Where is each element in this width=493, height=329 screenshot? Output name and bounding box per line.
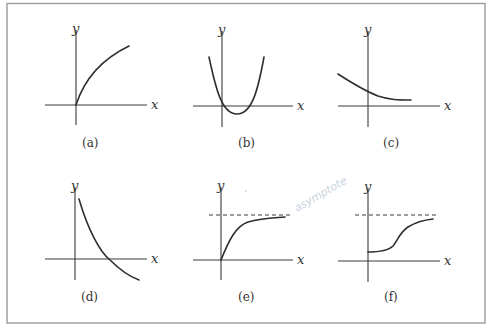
y-axis-label: y [217, 22, 226, 37]
panel-d: y x (d) [45, 178, 159, 304]
curve-c [338, 74, 411, 100]
y-axis-label: y [71, 21, 80, 36]
y-axis-label: y [70, 178, 79, 193]
speck [245, 190, 247, 192]
panel-c: y x (c) [338, 22, 452, 150]
x-axis-label: x [297, 252, 305, 267]
x-axis-label: x [151, 251, 159, 266]
x-axis-label: x [151, 97, 159, 112]
panel-b: y x (b) [193, 22, 305, 150]
panel-label: (d) [81, 290, 98, 304]
curve-e [221, 217, 285, 260]
panel-label: (a) [82, 136, 99, 150]
y-axis-label: y [216, 178, 225, 193]
x-axis-label: x [444, 98, 452, 113]
curve-a [76, 46, 129, 105]
y-axis-label: y [363, 22, 372, 37]
panel-label: (c) [383, 136, 399, 150]
x-axis-label: x [297, 98, 305, 113]
curve-f [368, 219, 433, 252]
handwritten-note: asymptote [292, 174, 350, 215]
curve-d [79, 199, 139, 280]
figure-canvas: y x (a) y x (b) y x (c) y x (d) y x (e) [0, 0, 493, 329]
panel-label: (e) [238, 290, 254, 304]
panel-label: (b) [238, 136, 255, 150]
panel-f: y x (f) [338, 179, 452, 304]
x-axis-label: x [444, 253, 452, 268]
panel-label: (f) [384, 290, 398, 304]
y-axis-label: y [363, 179, 372, 194]
panel-e: y x (e) [193, 178, 305, 304]
panel-a: y x (a) [45, 21, 159, 150]
figure-frame [7, 4, 485, 324]
